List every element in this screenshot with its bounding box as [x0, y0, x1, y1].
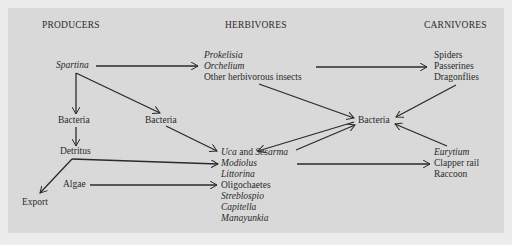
- node-detritus: Detritus: [60, 146, 91, 157]
- node-passerines: Passerines: [434, 61, 474, 72]
- node-modiolus: Modiolus: [221, 158, 257, 169]
- node-spiders: Spiders: [434, 50, 463, 61]
- node-manayunkia: Manayunkia: [221, 213, 269, 224]
- node-littorina: Littorina: [221, 169, 255, 180]
- sesarma-label: Sesarma: [255, 147, 288, 157]
- arrow-bacteria-mid-to-uca: [166, 126, 217, 151]
- header-herbivores: HERBIVORES: [225, 20, 287, 31]
- and-label: and: [237, 147, 255, 157]
- header-carnivores: CARNIVORES: [424, 20, 487, 31]
- node-orchelium: Orchelium: [204, 61, 244, 72]
- node-bacteria-right: Bacteria: [358, 115, 390, 126]
- arrow-spartina-to-bacteria-mid: [76, 73, 160, 113]
- uca-label: Uca: [221, 147, 237, 157]
- node-algae: Algae: [63, 179, 86, 190]
- header-producers: PRODUCERS: [42, 20, 100, 31]
- node-eurytium: Eurytium: [434, 147, 469, 158]
- node-export: Export: [22, 197, 48, 208]
- node-spartina: Spartina: [56, 60, 89, 71]
- node-oligochaetes: Oligochaetes: [221, 180, 271, 191]
- node-raccoon: Raccoon: [434, 169, 467, 180]
- node-prokelisia: Prokelisia: [204, 50, 243, 61]
- node-capitella: Capitella: [221, 202, 256, 213]
- node-dragonflies: Dragonflies: [434, 72, 479, 83]
- arrow-insects-to-bacteria: [259, 84, 354, 118]
- node-streblospio: Streblospio: [221, 191, 264, 202]
- node-bacteria-left: Bacteria: [58, 115, 90, 126]
- arrow-detritus-to-modiolus: [72, 159, 218, 164]
- node-other-insects: Other herbivorous insects: [204, 72, 302, 83]
- node-clapper-rail: Clapper rail: [434, 158, 479, 169]
- node-bacteria-mid: Bacteria: [145, 115, 177, 126]
- arrow-carnivores-to-bacteria: [396, 85, 456, 117]
- node-uca-sesarma: Uca and Sesarma: [221, 147, 288, 158]
- arrow-eurytium-to-bacteria: [395, 124, 447, 146]
